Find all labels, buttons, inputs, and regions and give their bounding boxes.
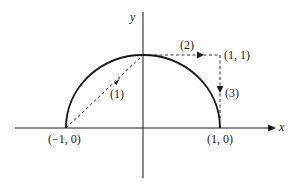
point-label-corner: (1, 1) <box>224 48 250 62</box>
path-2 <box>143 52 220 59</box>
point-label-right: (1, 0) <box>207 132 233 146</box>
x-axis-arrow-icon <box>268 125 276 132</box>
path-2-label: (2) <box>180 38 194 52</box>
path-1-label: (1) <box>110 87 124 101</box>
path-3-label: (3) <box>225 86 239 100</box>
path-2-arrow-icon <box>197 52 204 59</box>
diagram-canvas: x y (1) (2) (3) (−1, 0) (1, 0) (1, 1) <box>0 0 293 188</box>
point-label-left: (−1, 0) <box>48 132 81 146</box>
x-axis-label: x <box>278 120 285 134</box>
path-3-arrow-icon <box>217 86 224 93</box>
y-axis-label: y <box>129 10 136 24</box>
path-1 <box>66 55 143 128</box>
x-axis <box>15 125 276 132</box>
